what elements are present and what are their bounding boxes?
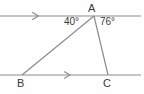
angle-label-40-degrees: 40° (64, 17, 79, 27)
vertex-label-b: B (17, 78, 24, 89)
vertex-label-c: C (103, 78, 111, 89)
vertex-label-a: A (88, 3, 95, 14)
segment-ab (22, 16, 94, 75)
geometry-figure: A B C 40° 76° (0, 0, 144, 94)
angle-label-76-degrees: 76° (100, 17, 115, 27)
